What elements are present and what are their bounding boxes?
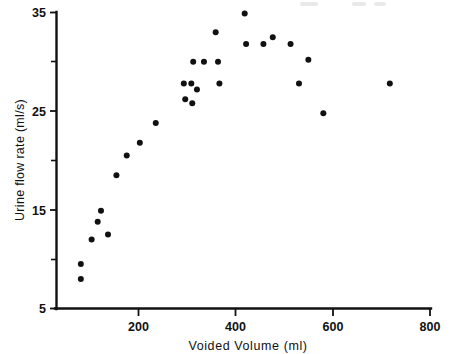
data-point (189, 100, 195, 106)
data-point (124, 153, 130, 159)
data-point (78, 276, 84, 282)
x-tick-label-400: 400 (225, 320, 246, 334)
data-point (288, 41, 294, 47)
data-point (98, 208, 104, 214)
y-tick-label-15: 15 (32, 204, 46, 218)
data-point (213, 29, 219, 35)
y-tick-label-25: 25 (32, 105, 46, 119)
plot-canvas: 35 25 15 5 200 400 600 800 Voided Volume… (0, 0, 450, 354)
data-point (243, 41, 249, 47)
data-point (296, 81, 302, 87)
data-points-layer (78, 10, 393, 281)
data-point (216, 81, 222, 87)
data-point (270, 34, 276, 40)
data-point (105, 232, 111, 238)
scan-artifact (300, 2, 386, 6)
data-point (95, 219, 101, 225)
x-axis-title: Voided Volume (ml) (188, 339, 307, 353)
x-tick-label-200: 200 (128, 320, 149, 334)
data-point (305, 57, 311, 63)
data-point (153, 120, 159, 126)
scatter-plot-figure: 35 25 15 5 200 400 600 800 Voided Volume… (0, 0, 450, 354)
data-point (387, 81, 393, 87)
data-point (181, 81, 187, 87)
data-point (182, 96, 188, 102)
y-tick-label-5: 5 (39, 302, 46, 316)
data-point (188, 81, 194, 87)
data-point (201, 59, 207, 65)
y-axis-title: Urine flow rate (ml/s) (13, 99, 27, 221)
data-point (320, 110, 326, 116)
y-tick-labels: 35 25 15 5 (32, 6, 46, 316)
data-point (89, 236, 95, 242)
data-point (260, 41, 266, 47)
data-point (215, 59, 221, 65)
y-tick-label-35: 35 (32, 6, 46, 20)
data-point (78, 261, 84, 267)
data-point (242, 10, 248, 16)
data-point (137, 140, 143, 146)
x-tick-label-800: 800 (420, 320, 441, 334)
axes-lines (55, 12, 431, 309)
x-tick-labels: 200 400 600 800 (128, 320, 440, 334)
x-tick-label-600: 600 (323, 320, 344, 334)
data-point (113, 172, 119, 178)
data-point (194, 86, 200, 92)
data-point (190, 59, 196, 65)
